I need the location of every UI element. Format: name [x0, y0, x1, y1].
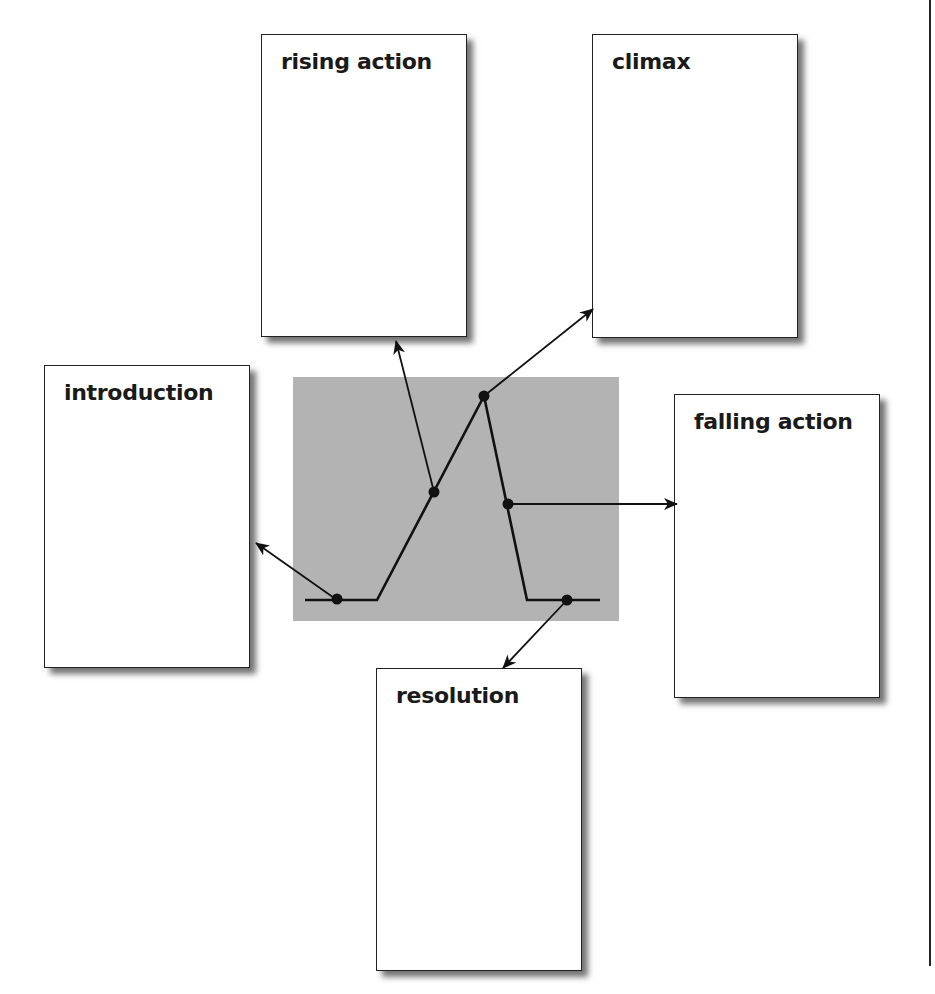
point-rising-action: [429, 487, 440, 498]
point-resolution: [562, 595, 573, 606]
point-falling-action: [503, 499, 514, 510]
point-introduction: [332, 594, 343, 605]
right-margin-rule: [929, 0, 931, 966]
point-climax: [479, 391, 490, 402]
plot-line: [305, 396, 600, 600]
arrow-climax: [484, 309, 593, 396]
arrow-rising-action: [396, 341, 434, 492]
arrow-introduction: [256, 543, 337, 600]
plot-diagram-lines: [0, 0, 935, 994]
arrow-resolution: [503, 600, 567, 668]
